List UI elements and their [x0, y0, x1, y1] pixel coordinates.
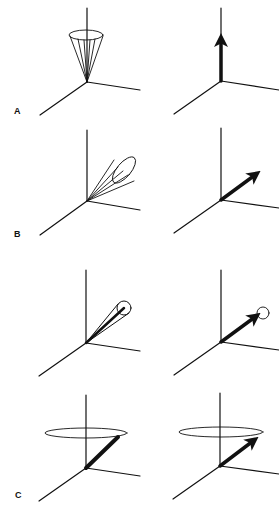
panel-c-right-axes [173, 393, 279, 499]
cone-icon [87, 153, 140, 201]
orbit-icon [179, 427, 263, 437]
panel-3-right-axes [174, 270, 279, 375]
panel-b-right-axes [174, 128, 279, 233]
panel-b-left-axes [40, 130, 140, 235]
arrow-icon [220, 441, 253, 466]
panel-3-left-axes [39, 270, 140, 376]
arrow-icon [221, 317, 255, 342]
panel-label-a: A [14, 106, 21, 116]
diagram-canvas [0, 0, 279, 512]
cone-icon [86, 301, 131, 343]
panel-a-right-axes [174, 8, 279, 114]
vector-icon [86, 437, 118, 468]
panel-label-b: B [14, 229, 21, 239]
circle-icon [257, 307, 269, 319]
panel-a-left-axes [40, 8, 140, 115]
panel-label-c: C [15, 490, 22, 500]
panel-c-left-axes [39, 395, 140, 501]
arrow-icon [221, 175, 255, 200]
cone-icon [69, 30, 103, 82]
